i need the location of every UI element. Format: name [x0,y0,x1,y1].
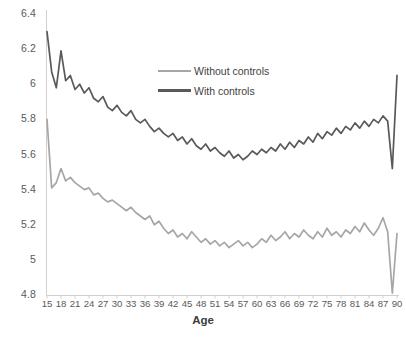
legend-swatch-without-controls [158,70,191,72]
chart-legend: Without controls With controls [158,62,269,102]
series-line-without-controls [47,119,397,293]
y-tick-6: 6 [2,77,36,89]
x-tick-90: 90 [386,298,406,309]
plot-area [0,0,406,349]
y-tick-5: 5 [2,253,36,265]
y-tick-4-8: 4.8 [2,288,36,300]
legend-swatch-with-controls [158,89,191,92]
legend-item-without-controls: Without controls [158,62,269,79]
y-tick-6-4: 6.4 [2,7,36,19]
x-axis-title: Age [0,314,406,326]
legend-item-with-controls: With controls [158,82,269,99]
legend-label-with-controls: With controls [194,85,255,97]
y-tick-6-2: 6.2 [2,42,36,54]
y-tick-5-4: 5.4 [2,183,36,195]
line-chart: 4.855.25.45.65.866.26.4 1518212427303336… [0,0,406,349]
y-tick-5-6: 5.6 [2,148,36,160]
y-tick-5-2: 5.2 [2,218,36,230]
y-tick-5-8: 5.8 [2,112,36,124]
legend-label-without-controls: Without controls [194,65,269,77]
